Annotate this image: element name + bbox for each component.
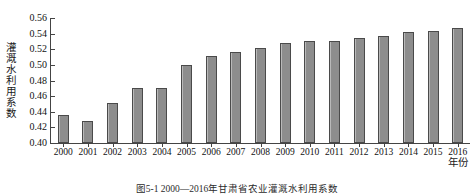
bar	[428, 31, 439, 143]
x-axis-tick-label: 2005	[177, 147, 196, 158]
y-axis-tick-label: 0.48	[17, 76, 47, 86]
x-axis-tick-label: 2004	[152, 147, 171, 158]
x-axis-title: 年份	[448, 157, 468, 169]
x-axis-tick-labels: 2000200120022003200420052006200720082009…	[0, 147, 474, 160]
bar	[58, 115, 69, 143]
bar	[354, 38, 365, 143]
bar	[156, 88, 167, 143]
x-axis-tick-label: 2015	[424, 147, 443, 158]
bar	[181, 65, 192, 143]
bar-series	[51, 18, 470, 143]
x-axis-tick-label: 2014	[399, 147, 418, 158]
y-axis-tick-labels: 0.400.420.440.460.480.500.520.540.56	[17, 12, 47, 149]
bar	[378, 36, 389, 143]
x-axis-tick-label: 2002	[103, 147, 122, 158]
bar	[230, 52, 241, 143]
figure-caption: 图5-1 2000—2016年甘肃省农业灌溉水利用系数	[0, 183, 474, 195]
x-axis-tick-label: 2000	[54, 147, 73, 158]
x-axis-tick-label: 2013	[374, 147, 393, 158]
bar	[280, 43, 291, 143]
bar	[403, 32, 414, 143]
chart-plot-area: 灌溉水利用系数 0.400.420.440.460.480.500.520.54…	[0, 0, 474, 168]
bar	[107, 103, 118, 143]
y-axis-tick-label: 0.54	[17, 29, 47, 39]
x-axis-tick-label: 2008	[251, 147, 270, 158]
y-axis-tick	[51, 143, 55, 144]
bar	[304, 41, 315, 143]
figure-container: 灌溉水利用系数 0.400.420.440.460.480.500.520.54…	[0, 0, 474, 195]
bar	[132, 88, 143, 143]
x-axis-tick-label: 2010	[300, 147, 319, 158]
y-axis-tick-label: 0.50	[17, 60, 47, 70]
bar	[329, 41, 340, 143]
x-axis-tick-label: 2011	[325, 147, 344, 158]
bar	[206, 56, 217, 144]
y-axis-tick-label: 0.56	[17, 13, 47, 23]
x-axis-tick-label: 2007	[226, 147, 245, 158]
x-axis-tick-label: 2012	[350, 147, 369, 158]
x-axis-tick-label: 2009	[276, 147, 295, 158]
y-axis-tick-label: 0.44	[17, 107, 47, 117]
x-axis-tick-label: 2003	[128, 147, 147, 158]
y-axis-tick-label: 0.52	[17, 44, 47, 54]
x-axis-tick-label: 2001	[78, 147, 97, 158]
y-axis-title: 灌溉水利用系数	[2, 18, 17, 143]
y-axis-tick-label: 0.46	[17, 91, 47, 101]
x-axis-tick-label: 2006	[202, 147, 221, 158]
bar	[255, 48, 266, 143]
bar	[452, 28, 463, 143]
y-axis-tick-label: 0.42	[17, 122, 47, 132]
bar	[82, 121, 93, 143]
